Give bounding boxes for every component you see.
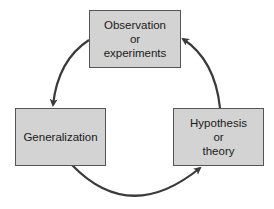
arrow-generalization-to-hypothesis bbox=[72, 165, 200, 196]
node-label: Generalization bbox=[23, 130, 97, 144]
node-label: experiments bbox=[104, 46, 167, 60]
arrow-hypothesis-to-observation bbox=[183, 39, 220, 108]
node-label: or bbox=[130, 32, 140, 46]
node-observation: Observation or experiments bbox=[89, 10, 181, 68]
node-generalization: Generalization bbox=[15, 108, 106, 166]
node-label: Hypothesis bbox=[190, 116, 247, 130]
node-hypothesis: Hypothesis or theory bbox=[173, 108, 264, 166]
node-label: theory bbox=[203, 144, 235, 158]
node-label: or bbox=[213, 130, 223, 144]
node-label: Observation bbox=[104, 18, 166, 32]
arrow-observation-to-generalization bbox=[53, 40, 89, 105]
